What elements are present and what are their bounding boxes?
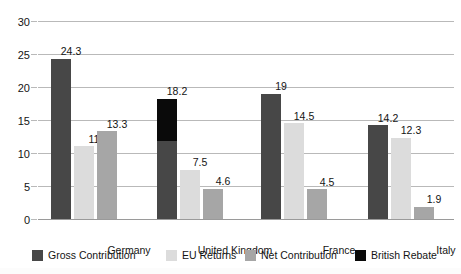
legend-item-net-contribution[interactable]: Net Contribution: [245, 250, 337, 261]
y-axis-label-20: 20: [0, 83, 30, 94]
tick-dash-15: [31, 120, 37, 121]
bar-germany-gross-contribution[interactable]: [51, 59, 71, 219]
tick-dash-20: [31, 87, 37, 88]
bar-label-france-net: 4.5: [307, 177, 347, 188]
bar-group-france: 19 14.5 4.5: [261, 21, 333, 219]
legend-item-eu-returns[interactable]: EU Returns: [166, 250, 236, 261]
tick-dash-30: [31, 21, 37, 22]
gridline-baseline-0: [38, 219, 454, 220]
plot-area: 30 25 20 15 10 5 0 24.3 11 13.3 Germany: [38, 21, 454, 219]
bar-france-eu-returns[interactable]: [284, 123, 304, 219]
legend-swatch-net-contribution: [245, 250, 256, 261]
bar-label-france-returns: 14.5: [284, 111, 324, 122]
y-axis-label-15: 15: [0, 116, 30, 127]
y-axis-label-30: 30: [0, 17, 30, 28]
legend-item-gross-contribution[interactable]: Gross Contribution: [32, 250, 136, 261]
bar-group-united-kingdom: 18.2 7.5 4.6: [157, 21, 229, 219]
legend-swatch-gross-contribution: [32, 250, 43, 261]
bar-uk-net-contribution[interactable]: [203, 189, 223, 219]
bar-label-italy-gross: 14.2: [368, 113, 408, 124]
y-axis-label-25: 25: [0, 50, 30, 61]
tick-dash-0: [31, 219, 37, 220]
bar-uk-eu-returns[interactable]: [180, 170, 200, 220]
bar-label-italy-returns: 12.3: [391, 125, 431, 136]
bar-label-germany-net: 13.3: [97, 119, 137, 130]
bar-germany-eu-returns[interactable]: [74, 146, 94, 219]
bar-label-uk-gross: 18.2: [157, 86, 197, 97]
tick-dash-25: [31, 54, 37, 55]
bar-france-gross-contribution[interactable]: [261, 94, 281, 219]
bottom-edge-artifact: [0, 268, 461, 274]
bar-italy-net-contribution[interactable]: [414, 207, 434, 220]
chart-legend: Gross Contribution EU Returns Net Contri…: [0, 250, 461, 264]
legend-label-net-contribution: Net Contribution: [261, 250, 337, 261]
legend-label-eu-returns: EU Returns: [182, 250, 236, 261]
legend-label-gross-contribution: Gross Contribution: [48, 250, 136, 261]
bar-italy-gross-contribution[interactable]: [368, 125, 388, 219]
bar-chart: 30 25 20 15 10 5 0 24.3 11 13.3 Germany: [0, 0, 461, 274]
legend-swatch-eu-returns: [166, 250, 177, 261]
legend-swatch-british-rebate: [355, 250, 366, 261]
legend-label-british-rebate: British Rebate: [371, 250, 437, 261]
bar-segment-uk-gross-base: [157, 141, 177, 220]
tick-dash-10: [31, 153, 37, 154]
y-axis-label-0: 0: [0, 215, 30, 226]
bar-germany-net-contribution[interactable]: [97, 131, 117, 219]
bar-group-germany: 24.3 11 13.3: [51, 21, 123, 219]
tick-dash-5: [31, 186, 37, 187]
bar-uk-gross-contribution[interactable]: [157, 99, 177, 219]
bar-label-uk-returns: 7.5: [180, 157, 220, 168]
bar-label-uk-net: 4.6: [203, 176, 243, 187]
bar-italy-eu-returns[interactable]: [391, 138, 411, 219]
y-axis-label-10: 10: [0, 149, 30, 160]
bar-group-italy: 14.2 12.3 1.9: [368, 21, 440, 219]
y-axis-label-5: 5: [0, 182, 30, 193]
bar-label-italy-net: 1.9: [414, 194, 454, 205]
bar-france-net-contribution[interactable]: [307, 189, 327, 219]
legend-item-british-rebate[interactable]: British Rebate: [355, 250, 437, 261]
bar-label-france-gross: 19: [261, 81, 301, 92]
bar-segment-uk-british-rebate: [157, 99, 177, 141]
bar-label-germany-gross: 24.3: [51, 46, 91, 57]
